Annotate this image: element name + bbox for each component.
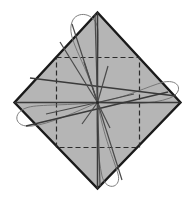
geometry-diagram: [0, 0, 193, 201]
center-point: [96, 101, 99, 104]
figure-container: [0, 0, 193, 201]
center-point-layer: [96, 101, 99, 104]
